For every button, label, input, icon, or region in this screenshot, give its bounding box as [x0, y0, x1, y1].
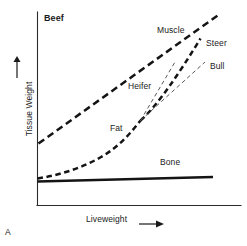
y-axis-label: Tissue Weight	[24, 71, 34, 147]
series-label-muscle: Muscle	[157, 26, 185, 35]
curve-fat	[38, 121, 141, 179]
figure-container: Beef Muscle Steer Bull Heifer Fat Bone L…	[0, 0, 247, 246]
series-label-fat: Fat	[110, 124, 123, 133]
series-label-bone: Bone	[160, 158, 180, 167]
arrow-up-icon	[12, 56, 22, 78]
series-label-steer: Steer	[206, 39, 227, 48]
series-label-bull: Bull	[210, 62, 225, 71]
curve-muscle	[39, 14, 221, 144]
curve-steer	[141, 39, 201, 121]
curve-heifer	[141, 62, 176, 121]
series-label-heifer: Heifer	[128, 82, 151, 91]
arrow-right-icon	[139, 215, 165, 225]
chart-title: Beef	[44, 14, 64, 23]
chart-canvas	[0, 0, 247, 246]
curve-bone	[38, 177, 214, 182]
x-axis-label: Liveweight	[86, 215, 127, 224]
figure-letter: A	[5, 228, 11, 237]
